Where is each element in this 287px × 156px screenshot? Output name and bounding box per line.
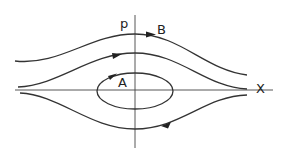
trajectory-lower <box>20 93 247 129</box>
trajectory-upper-inner <box>18 53 247 89</box>
vertical-axis-label: p <box>120 16 128 31</box>
horizontal-axis-label: X <box>256 81 265 96</box>
trajectory-b-label: B <box>157 22 166 37</box>
arrow-icon <box>108 74 117 81</box>
phase-portrait-diagram: p X B A <box>0 0 287 156</box>
trajectory-b <box>15 34 247 75</box>
arrow-icon <box>112 53 122 59</box>
trajectory-a-label: A <box>118 75 127 90</box>
